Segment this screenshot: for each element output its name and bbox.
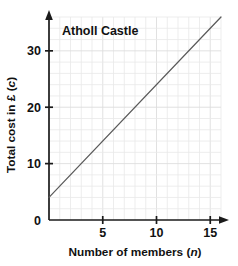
- x-tick-label: 5: [99, 226, 106, 240]
- y-tick-label: 30: [27, 44, 41, 58]
- y-axis-title-prefix: Total cost in £ (: [4, 87, 18, 173]
- y-tick-label: 10: [27, 157, 41, 171]
- y-axis-title-suffix: ): [4, 77, 18, 81]
- x-tick-label: 10: [150, 226, 164, 240]
- line-chart: 0102030 51015 Atholl Castle Number of me…: [0, 0, 238, 266]
- x-tick-label: 15: [203, 226, 217, 240]
- chart-container: 0102030 51015 Atholl Castle Number of me…: [0, 0, 238, 266]
- x-axis-title: Number of members (n): [68, 245, 201, 259]
- chart-title: Atholl Castle: [62, 24, 138, 38]
- y-tick-label: 20: [27, 101, 41, 115]
- x-axis-title-suffix: ): [198, 245, 202, 259]
- x-axis-title-prefix: Number of members (: [68, 245, 190, 259]
- y-tick-label: 0: [34, 214, 41, 228]
- x-axis-title-variable: n: [190, 245, 197, 259]
- y-axis-title: Total cost in £ (c): [4, 77, 18, 173]
